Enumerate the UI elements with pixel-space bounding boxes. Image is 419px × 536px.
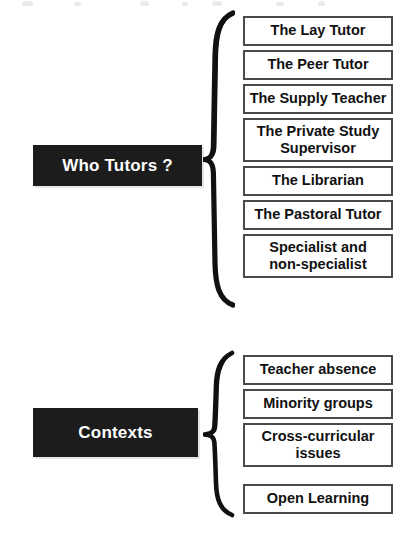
item-box[interactable]: Specialist and non-specialist [243, 234, 393, 278]
group-label-text: Contexts [78, 424, 152, 441]
item-label: The Lay Tutor [249, 22, 387, 39]
item-label: Teacher absence [249, 361, 387, 378]
item-box[interactable]: Minority groups [243, 389, 393, 419]
item-label: Specialist and non-specialist [249, 239, 387, 273]
item-label: The Peer Tutor [249, 56, 387, 73]
item-label: The Pastoral Tutor [249, 206, 387, 223]
item-label: The Librarian [249, 172, 387, 189]
item-box[interactable]: Cross-curricular issues [243, 423, 393, 467]
item-label: Minority groups [249, 395, 387, 412]
item-box[interactable]: The Librarian [243, 166, 393, 196]
item-label: Open Learning [249, 490, 387, 507]
scan-artifact-smudges [0, 0, 419, 10]
left-curly-brace-icon [203, 10, 235, 308]
item-box[interactable]: Teacher absence [243, 355, 393, 385]
item-box[interactable]: The Private Study Supervisor [243, 118, 393, 162]
group-label-text: Who Tutors ? [62, 157, 173, 174]
item-box[interactable]: The Lay Tutor [243, 16, 393, 46]
left-curly-brace-icon [203, 350, 235, 518]
group-label-who-tutors[interactable]: Who Tutors ? [33, 145, 202, 186]
item-box[interactable]: The Peer Tutor [243, 50, 393, 80]
item-label: Cross-curricular issues [249, 428, 387, 462]
group-label-contexts[interactable]: Contexts [33, 408, 198, 457]
item-box[interactable]: The Pastoral Tutor [243, 200, 393, 230]
brace-diagram: Who Tutors ? The Lay Tutor The Peer Tuto… [0, 0, 419, 536]
item-box[interactable]: Open Learning [243, 484, 393, 514]
item-label: The Private Study Supervisor [249, 123, 387, 157]
item-label: The Supply Teacher [249, 90, 387, 107]
item-box[interactable]: The Supply Teacher [243, 84, 393, 114]
